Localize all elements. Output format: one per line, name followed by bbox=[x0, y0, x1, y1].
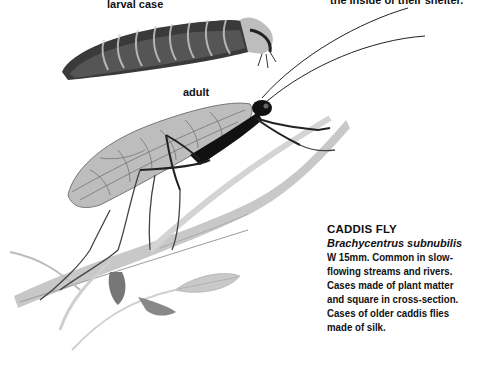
description-line: Cases of older caddis flies bbox=[327, 306, 481, 320]
species-common-name: CADDIS FLY bbox=[327, 222, 482, 236]
antennae bbox=[262, 8, 425, 102]
larval-case-illustration bbox=[62, 18, 276, 80]
larval-case-label: larval case bbox=[107, 0, 163, 10]
top-caption-fragment: the inside of their shelter. bbox=[330, 0, 463, 6]
leaves bbox=[109, 272, 240, 316]
description-line: and square in cross-section. bbox=[327, 292, 481, 306]
description-line: Cases made of plant matter bbox=[327, 278, 481, 292]
description-line: made of silk. bbox=[327, 320, 481, 334]
description-line: flowing streams and rivers. bbox=[327, 264, 481, 278]
species-description: W 15mm. Common in slow- flowing streams … bbox=[327, 250, 481, 334]
species-caption: CADDIS FLY Brachycentrus subnubilis W 15… bbox=[327, 222, 482, 334]
description-line: W 15mm. Common in slow- bbox=[327, 250, 481, 264]
adult-label: adult bbox=[183, 86, 209, 98]
species-latin-name: Brachycentrus subnubilis bbox=[327, 236, 482, 250]
